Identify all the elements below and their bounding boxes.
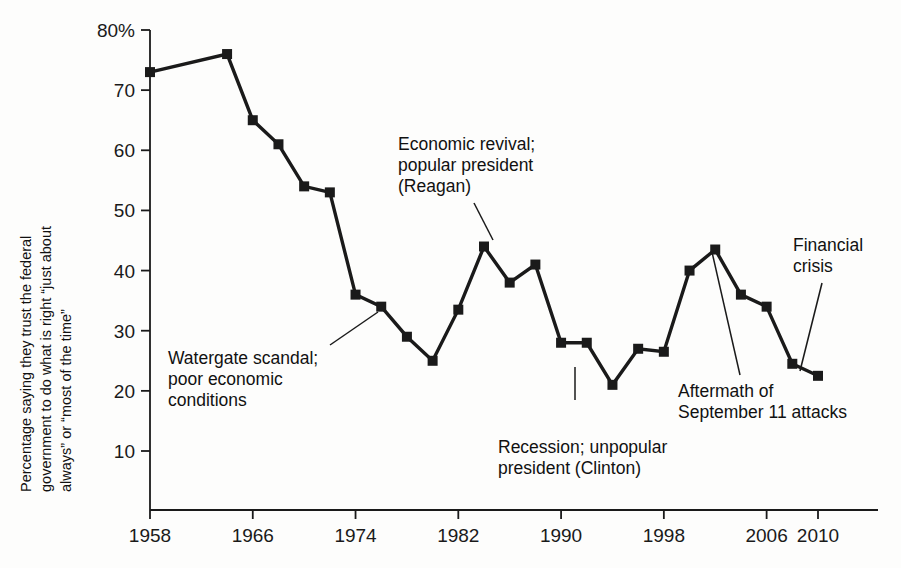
x-axis-tick-label: 1982 [437,525,479,546]
data-point-marker[interactable] [762,302,772,312]
annotation-watergate: Watergate scandal; poor economic conditi… [168,348,318,411]
data-point-marker[interactable] [325,187,335,197]
y-axis-tick-label: 80% [97,20,135,41]
plot-area: 1020304050607080%19581966197419821990199… [0,0,901,568]
data-point-marker[interactable] [582,338,592,348]
data-point-marker[interactable] [787,359,797,369]
x-axis-tick-label: 1990 [540,525,582,546]
data-point-marker[interactable] [633,344,643,354]
x-axis-tick-label: 1998 [643,525,685,546]
data-point-marker[interactable] [402,332,412,342]
data-point-marker[interactable] [248,115,258,125]
data-line [150,54,818,385]
data-point-marker[interactable] [428,356,438,366]
data-point-marker[interactable] [685,266,695,276]
annotation-financial-crisis: Financial crisis [793,235,863,277]
x-axis-tick-label: 2010 [797,525,839,546]
data-point-marker[interactable] [273,139,283,149]
annotation-watergate-leader-line [330,312,378,345]
data-point-marker[interactable] [556,338,566,348]
x-axis-tick-label: 1958 [129,525,171,546]
y-axis-tick-label: 20 [114,381,135,402]
data-point-marker[interactable] [607,380,617,390]
y-axis-tick-label: 40 [114,261,135,282]
data-point-marker[interactable] [453,305,463,315]
data-point-marker[interactable] [376,302,386,312]
x-axis-tick-label: 2006 [745,525,787,546]
annotation-clinton: Recession; unpopular president (Clinton) [498,437,667,479]
data-point-marker[interactable] [479,242,489,252]
chart-figure: Percentage saying they trust the federal… [0,0,901,568]
data-point-marker[interactable] [145,67,155,77]
x-axis-tick-label: 1974 [334,525,377,546]
annotation-reagan: Economic revival; popular president (Rea… [398,134,535,197]
y-axis-tick-label: 60 [114,140,135,161]
y-axis-tick-label: 10 [114,441,135,462]
y-axis-tick-label: 70 [114,80,135,101]
y-axis-tick-label: 30 [114,321,135,342]
annotation-financial-crisis-leader-line [800,283,822,371]
annotation-reagan-leader-line [474,203,493,240]
data-point-marker[interactable] [530,260,540,270]
x-axis-tick-label: 1966 [232,525,274,546]
data-point-marker[interactable] [659,347,669,357]
data-point-marker[interactable] [222,49,232,59]
data-point-marker[interactable] [299,181,309,191]
data-point-marker[interactable] [813,371,823,381]
data-point-marker[interactable] [736,290,746,300]
data-point-marker[interactable] [351,290,361,300]
y-axis-tick-label: 50 [114,200,135,221]
annotation-september-11: Aftermath of September 11 attacks [678,381,847,423]
data-point-marker[interactable] [505,278,515,288]
